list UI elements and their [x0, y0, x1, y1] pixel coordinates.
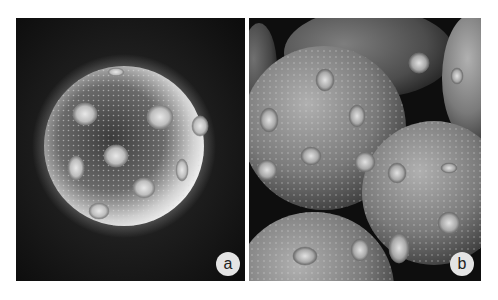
- panel-label-b: b: [450, 252, 474, 276]
- pollen-grain-image-a: [16, 18, 245, 281]
- pollen-grains-image-b: [249, 18, 481, 281]
- micrograph-panel-b: b: [249, 18, 481, 281]
- panel-label-a: a: [216, 252, 240, 276]
- micrograph-panel-a: a: [16, 18, 245, 281]
